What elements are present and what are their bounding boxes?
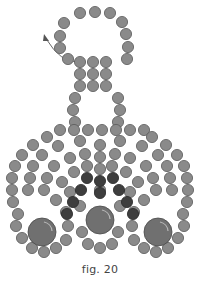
loop-bead: [62, 53, 73, 64]
dark-bead: [94, 187, 105, 198]
body-bead: [94, 242, 105, 253]
body-bead: [81, 160, 92, 171]
body-bead: [132, 176, 143, 187]
body-bead: [76, 226, 87, 237]
body-bead: [68, 166, 79, 177]
stem-bead: [67, 104, 78, 115]
body-bead: [94, 139, 105, 150]
body-bead: [41, 131, 52, 142]
body-bead: [181, 172, 192, 183]
body-bead: [7, 196, 18, 207]
dark-bead: [113, 184, 124, 195]
body-bead: [41, 172, 52, 183]
body-bead: [48, 160, 59, 171]
stem-bead: [100, 56, 111, 67]
body-bead: [82, 124, 93, 135]
body-bead: [128, 234, 139, 245]
body-bead: [94, 163, 105, 174]
body-bead: [106, 238, 117, 249]
body-bead: [50, 242, 61, 253]
body-bead: [136, 140, 147, 151]
stem-bead: [114, 104, 125, 115]
body-bead: [24, 172, 35, 183]
body-bead: [114, 135, 125, 146]
dark-bead: [81, 172, 92, 183]
loop-bead: [89, 6, 100, 17]
loop-bead: [104, 7, 115, 18]
body-bead: [74, 135, 85, 146]
stem-bead: [74, 80, 85, 91]
stem-bead: [87, 80, 98, 91]
body-bead: [146, 131, 157, 142]
loop-bead: [54, 42, 65, 53]
loop-bead: [120, 28, 131, 39]
body-bead: [152, 149, 163, 160]
body-bead: [161, 160, 172, 171]
body-bead: [110, 124, 121, 135]
body-bead: [124, 152, 135, 163]
body-bead: [150, 246, 161, 257]
body-bead: [94, 151, 105, 162]
body-bead: [54, 124, 65, 135]
body-bead: [124, 124, 135, 135]
body-bead: [16, 149, 27, 160]
body-bead: [10, 220, 21, 231]
body-bead: [109, 148, 120, 159]
body-bead: [50, 194, 61, 205]
figure-caption: fig. 20: [0, 263, 200, 276]
body-bead: [164, 172, 175, 183]
body-bead: [160, 139, 171, 150]
body-bead: [172, 232, 183, 243]
loop-bead: [121, 53, 132, 64]
body-bead: [6, 172, 17, 183]
body-bead: [38, 246, 49, 257]
dark-bead: [121, 196, 132, 207]
body-bead: [182, 184, 193, 195]
body-bead: [64, 186, 75, 197]
dark-bead: [67, 196, 78, 207]
dark-bead: [107, 172, 118, 183]
stem-bead: [74, 56, 85, 67]
body-bead: [52, 140, 63, 151]
large-bead: [144, 218, 172, 246]
stem-bead: [74, 68, 85, 79]
loop-bead: [54, 30, 65, 41]
body-bead: [120, 166, 131, 177]
body-bead: [9, 160, 20, 171]
stem-bead: [69, 92, 80, 103]
body-bead: [68, 124, 79, 135]
beading-diagram: [0, 0, 200, 285]
dark-bead: [94, 175, 105, 186]
body-bead: [138, 194, 149, 205]
large-bead: [28, 218, 56, 246]
body-bead: [96, 124, 107, 135]
stem-bead: [100, 68, 111, 79]
body-bead: [22, 184, 33, 195]
body-bead: [106, 160, 117, 171]
body-bead: [124, 186, 135, 197]
stem-bead: [100, 80, 111, 91]
body-bead: [56, 176, 67, 187]
body-bead: [12, 208, 23, 219]
stem-bead: [87, 56, 98, 67]
dark-bead: [61, 208, 72, 219]
body-bead: [60, 234, 71, 245]
body-bead: [79, 148, 90, 159]
loop-bead: [58, 17, 69, 28]
loop-bead: [74, 7, 85, 18]
body-bead: [126, 220, 137, 231]
arrow-head-icon: [43, 34, 49, 41]
body-bead: [178, 160, 189, 171]
body-bead: [27, 160, 38, 171]
large-bead: [86, 206, 114, 234]
body-bead: [140, 160, 151, 171]
body-bead: [62, 220, 73, 231]
body-bead: [171, 149, 182, 160]
body-bead: [177, 208, 188, 219]
body-bead: [147, 172, 158, 183]
body-bead: [38, 184, 49, 195]
body-bead: [166, 184, 177, 195]
body-bead: [178, 220, 189, 231]
body-bead: [27, 139, 38, 150]
body-bead: [6, 184, 17, 195]
